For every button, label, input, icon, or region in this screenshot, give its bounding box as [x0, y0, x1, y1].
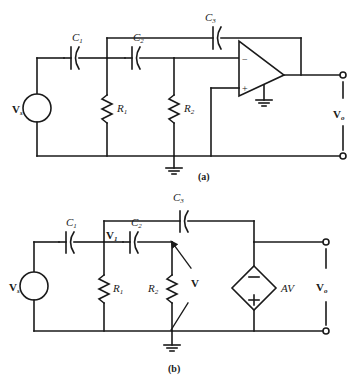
label-c1-a: C1	[72, 31, 83, 45]
ground-b	[164, 331, 180, 351]
resistor-r1-b	[99, 242, 109, 331]
label-c2-a: C2	[133, 31, 144, 45]
label-c1-b: C1	[66, 216, 77, 230]
label-output-b: Vo	[316, 281, 328, 295]
label-source-b: Vs	[9, 281, 20, 295]
operational-amplifier-a	[239, 41, 343, 106]
ground-a-bottom	[166, 156, 182, 174]
source-b	[20, 242, 48, 331]
label-node-v1-b: V1	[106, 229, 117, 243]
label-c2-b: C2	[131, 216, 142, 230]
label-output-a: Vo	[333, 108, 345, 122]
circuit-a-group	[23, 27, 346, 174]
label-r2-a: R2	[183, 102, 195, 116]
capacitor-c1-a	[64, 47, 107, 69]
label-source-a: Vs	[12, 103, 23, 117]
resistor-r1-a	[102, 58, 112, 156]
capacitor-c2-a	[125, 47, 174, 69]
capacitor-c3-b	[104, 211, 254, 242]
opamp-inverting-sign-a: −	[242, 54, 248, 65]
label-r1-b: R1	[112, 282, 123, 296]
label-c3-a: C3	[205, 11, 216, 25]
circuit-diagram-svg: Vs C1 C2 C3 R1 R2 − + Vo (a) Vs C1 C2 C3…	[0, 0, 359, 377]
circuit-b-group	[20, 211, 329, 351]
capacitor-c1-b	[59, 232, 104, 253]
caption-a: (a)	[198, 171, 210, 183]
label-r2-b: R2	[147, 282, 159, 296]
capacitor-c2-b	[123, 232, 172, 253]
label-dependent-source-b: AV	[280, 282, 295, 294]
caption-b: (b)	[168, 363, 180, 375]
opamp-noninverting-sign-a: +	[242, 83, 248, 94]
figure-canvas: Vs C1 C2 C3 R1 R2 − + Vo (a) Vs C1 C2 C3…	[0, 0, 359, 377]
label-c3-b: C3	[173, 191, 184, 205]
resistor-r2-b	[167, 242, 177, 331]
dependent-source-b	[232, 266, 276, 331]
source-a	[23, 58, 51, 156]
voltage-arrow-v-b	[171, 245, 191, 330]
label-node-v-b: V	[191, 277, 199, 289]
resistor-r2-a	[169, 58, 179, 156]
label-r1-a: R1	[116, 102, 127, 116]
